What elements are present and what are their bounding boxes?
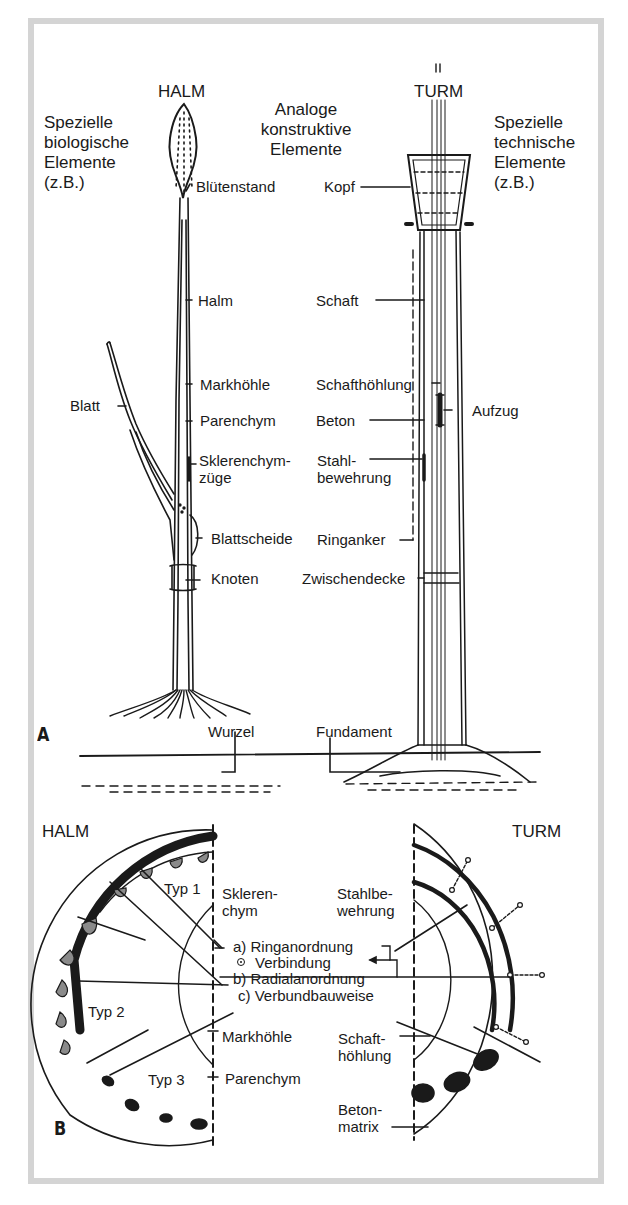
label-sklerenchymzuege: Sklerenchym- züge	[199, 452, 291, 486]
label-knoten: Knoten	[211, 570, 259, 587]
principle-radialanordnung: b) Radialanordnung	[233, 970, 365, 987]
label-ringanker: Ringanker	[317, 531, 385, 548]
label-wurzel: Wurzel	[208, 723, 254, 740]
label-halm: Halm	[198, 292, 233, 309]
connection-icon	[237, 958, 245, 966]
section-turm-title: TURM	[512, 822, 561, 842]
principle-verbindung: Verbindung	[255, 954, 331, 971]
biological-elements-caption: Spezielle biologische Elemente (z.B.)	[44, 113, 129, 193]
label-bluetenstand: Blütenstand	[196, 178, 275, 195]
label-typ3: Typ 3	[148, 1071, 185, 1088]
label-sklerenchym: Skleren- chym	[222, 885, 278, 919]
label-stahlbewehrung: Stahl- bewehrung	[317, 452, 391, 486]
turm-cross-section	[392, 824, 544, 1140]
analogous-elements-caption: Analoge konstruktive Elemente	[246, 100, 366, 160]
principle-ringanordnung: a) Ringanordnung	[233, 938, 353, 955]
label-aufzug: Aufzug	[472, 402, 519, 419]
label-blatt: Blatt	[70, 397, 100, 414]
label-betonmatrix: Beton- matrix	[338, 1101, 382, 1135]
label-schafthoehlung-section: Schaft- höhlung	[338, 1030, 391, 1064]
label-schafthoehlung: Schafthöhlung	[316, 376, 412, 393]
label-parenchym-section: Parenchym	[225, 1070, 301, 1087]
turm-title: TURM	[414, 82, 463, 102]
label-stahlbewehrung-section: Stahlbe- wehrung	[337, 885, 395, 919]
label-blattscheide: Blattscheide	[211, 530, 293, 547]
label-typ1: Typ 1	[164, 880, 201, 897]
label-kopf: Kopf	[324, 178, 355, 195]
label-markhoehle-section: Markhöhle	[222, 1028, 292, 1045]
ground-line	[80, 752, 540, 756]
label-markhoehle: Markhöhle	[200, 376, 270, 393]
halm-title: HALM	[158, 82, 205, 102]
label-fundament: Fundament	[316, 723, 392, 740]
label-beton: Beton	[316, 412, 355, 429]
label-schaft: Schaft	[316, 292, 359, 309]
panel-label-b: B	[54, 1116, 66, 1140]
label-typ2: Typ 2	[88, 1003, 125, 1020]
technical-elements-caption: Spezielle technische Elemente (z.B.)	[494, 113, 575, 193]
section-halm-title: HALM	[42, 822, 89, 842]
halm-elevation-drawing	[107, 104, 250, 718]
label-parenchym: Parenchym	[200, 412, 276, 429]
label-zwischendecke: Zwischendecke	[302, 570, 405, 587]
halm-cross-section	[31, 825, 233, 1148]
principle-verbundbauweise: c) Verbundbauweise	[238, 987, 374, 1004]
panel-label-a: A	[37, 722, 49, 746]
